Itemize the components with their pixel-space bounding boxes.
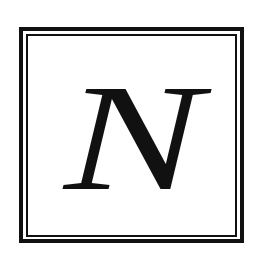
letter-n-glyph: N bbox=[0, 0, 255, 253]
logo-letter: N bbox=[61, 54, 212, 222]
